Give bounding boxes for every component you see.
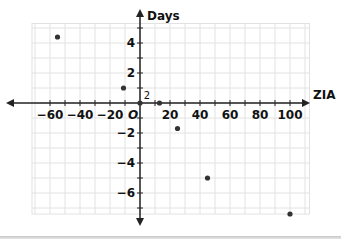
- data-point: [157, 100, 162, 105]
- x-axis-label: ZIA: [313, 88, 336, 102]
- origin-label: O: [128, 108, 138, 122]
- x-tick-label: 40: [192, 108, 209, 122]
- x-tick-label: 20: [162, 108, 179, 122]
- x-tick-label: 2: [144, 90, 150, 101]
- data-point: [137, 100, 142, 105]
- x-tick-label: 80: [252, 108, 269, 122]
- scatter-chart: −60−40−2022040608010042−2−4−6 ZIA Days O: [0, 0, 341, 246]
- y-tick-label: −6: [117, 186, 135, 200]
- data-point: [287, 211, 292, 216]
- y-tick-label: −2: [117, 126, 135, 140]
- y-tick-label: 4: [127, 36, 135, 50]
- data-points: [55, 34, 293, 216]
- y-axis-label: Days: [147, 9, 180, 23]
- data-point: [55, 34, 60, 39]
- divider: [0, 236, 341, 239]
- y-tick-label: 2: [127, 66, 135, 80]
- x-tick-label: −60: [37, 108, 64, 122]
- x-tick-label: −20: [97, 108, 124, 122]
- data-point: [175, 126, 180, 131]
- y-tick-label: −4: [117, 156, 135, 170]
- x-tick-label: 100: [277, 108, 302, 122]
- data-point: [121, 85, 126, 90]
- data-point: [205, 175, 210, 180]
- x-tick-label: 60: [222, 108, 239, 122]
- x-tick-label: −40: [67, 108, 94, 122]
